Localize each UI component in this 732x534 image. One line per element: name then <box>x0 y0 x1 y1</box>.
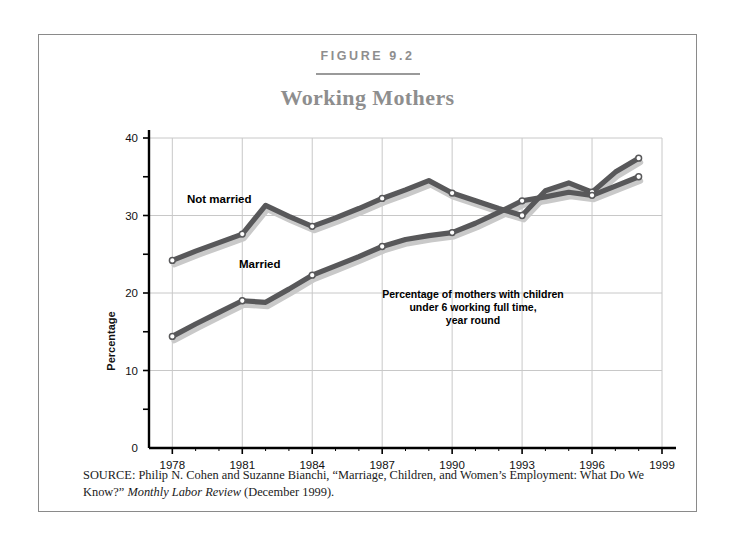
y-tick-label: 0 <box>132 442 138 454</box>
figure-frame: FIGURE 9.2 Working Mothers 010203040 197… <box>38 34 697 512</box>
data-point-marker <box>239 231 245 237</box>
y-axis-title: Percentage <box>105 311 117 370</box>
chart-plot-area: 010203040 197819811984198719901993199619… <box>39 35 698 513</box>
data-point-marker <box>449 190 455 196</box>
data-point-marker <box>449 230 455 236</box>
data-point-marker <box>636 155 642 161</box>
data-point-marker <box>519 213 525 219</box>
data-point-marker <box>169 258 175 264</box>
source-label: SOURCE: <box>83 468 135 482</box>
series-label-not-married: Not married <box>187 193 252 205</box>
y-tick-label: 10 <box>125 365 138 377</box>
annotation-line-2: under 6 working full time, <box>409 301 536 313</box>
annotation-line-1: Percentage of mothers with children <box>382 288 563 300</box>
y-axis-tick-labels: 010203040 <box>125 132 138 454</box>
series-label-married: Married <box>239 258 281 270</box>
data-point-marker <box>309 223 315 229</box>
source-citation: SOURCE: Philip N. Cohen and Suzanne Bian… <box>83 467 661 500</box>
data-point-marker <box>379 244 385 250</box>
annotation-line-3: year round <box>446 314 500 326</box>
data-point-marker <box>589 192 595 198</box>
y-tick-label: 30 <box>125 210 138 222</box>
data-point-marker <box>379 196 385 202</box>
y-tick-label: 40 <box>125 132 138 144</box>
data-point-marker <box>519 198 525 204</box>
series-shadow-1 <box>174 162 640 264</box>
data-point-marker <box>169 334 175 340</box>
source-text-part2: (December 1999). <box>241 485 334 499</box>
y-tick-label: 20 <box>125 287 138 299</box>
data-point-marker <box>309 272 315 278</box>
line-chart: 010203040 197819811984198719901993199619… <box>39 35 698 513</box>
data-point-marker <box>636 174 642 180</box>
data-point-marker <box>239 298 245 304</box>
source-journal-name: Monthly Labor Review <box>127 485 241 499</box>
